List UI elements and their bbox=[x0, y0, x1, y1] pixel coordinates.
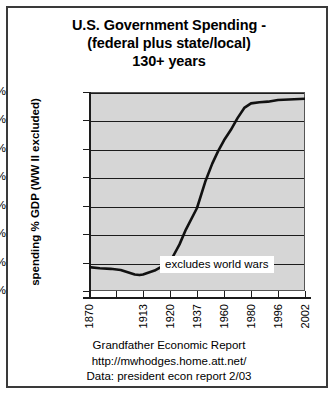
x-tick-label: 1870 bbox=[83, 304, 95, 328]
y-tick-label: 35% bbox=[0, 85, 6, 97]
x-tick-mark bbox=[305, 291, 306, 298]
y-tick-label: 0% bbox=[0, 284, 6, 296]
x-tick-label: 1960 bbox=[218, 304, 230, 328]
y-tick-mark bbox=[83, 177, 89, 178]
footer-source-url: http://mwhodges.home.att.net/ bbox=[22, 354, 316, 370]
y-tick-mark bbox=[83, 206, 89, 207]
plot-region: excludes world wars 0%5%10%15%20%25%30%3… bbox=[8, 8, 330, 390]
y-tick-label: 10% bbox=[0, 227, 6, 239]
annotation-excludes-world-wars: excludes world wars bbox=[160, 256, 274, 273]
x-tick-mark bbox=[143, 291, 144, 298]
x-tick-label: 1996 bbox=[272, 304, 284, 328]
y-tick-label: 15% bbox=[0, 199, 6, 211]
y-tick-mark bbox=[83, 92, 89, 93]
chart-footer: Grandfather Economic Report http://mwhod… bbox=[22, 338, 316, 385]
x-tick-label: 2002 bbox=[299, 304, 311, 328]
y-tick-label: 5% bbox=[0, 256, 6, 268]
chart-frame: U.S. Government Spending - (federal plus… bbox=[6, 6, 328, 388]
y-tick-mark bbox=[83, 149, 89, 150]
x-tick-mark bbox=[116, 291, 117, 298]
y-tick-label: 30% bbox=[0, 113, 6, 125]
x-tick-label: 1980 bbox=[245, 304, 257, 328]
x-tick-mark bbox=[197, 291, 198, 298]
x-tick-mark bbox=[224, 291, 225, 298]
footer-source-data: Data: president econ report 2/03 bbox=[22, 369, 316, 385]
x-tick-mark bbox=[278, 291, 279, 298]
x-tick-label: 1920 bbox=[164, 304, 176, 328]
x-tick-label: 1937 bbox=[191, 304, 203, 328]
footer-source-title: Grandfather Economic Report bbox=[22, 338, 316, 354]
x-tick-mark bbox=[170, 291, 171, 298]
x-tick-mark bbox=[89, 291, 90, 298]
y-tick-mark bbox=[83, 234, 89, 235]
x-tick-label: 1913 bbox=[137, 304, 149, 328]
y-tick-label: 25% bbox=[0, 142, 6, 154]
y-tick-mark bbox=[83, 263, 89, 264]
y-tick-label: 20% bbox=[0, 170, 6, 182]
y-tick-mark bbox=[83, 120, 89, 121]
x-tick-mark bbox=[251, 291, 252, 298]
